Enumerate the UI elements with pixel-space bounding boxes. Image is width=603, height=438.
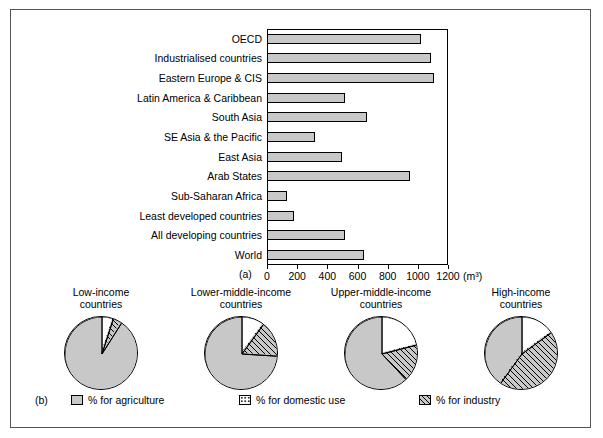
pie-slice-agriculture	[64, 316, 138, 390]
pie-chart-group: Low-income countries	[31, 286, 171, 390]
x-axis-tick	[388, 265, 389, 269]
pie-chart-group: High-income countries	[451, 286, 591, 390]
bar-row: Industrialised countries	[267, 49, 448, 69]
pie-chart-group: Lower-middle-income countries	[171, 286, 311, 390]
bar-category-label: World	[235, 250, 262, 261]
legend-swatch-agriculture	[71, 395, 83, 405]
bar-category-label: Latin America & Caribbean	[137, 92, 262, 103]
bar-category-label: Industrialised countries	[155, 53, 262, 64]
x-axis-tick	[418, 265, 419, 269]
legend-swatch-industry	[419, 395, 431, 405]
bar-row: SE Asia & the Pacific	[267, 127, 448, 147]
bar-row: Least developed countries	[267, 206, 448, 226]
pie-chart	[204, 316, 278, 390]
bar-category-label: South Asia	[212, 112, 262, 123]
bar-row: Sub-Saharan Africa	[267, 186, 448, 206]
bar-fill	[267, 93, 345, 103]
x-axis-tick	[327, 265, 328, 269]
pie-title: High-income countries	[451, 286, 591, 310]
bar-category-label: Sub-Saharan Africa	[171, 191, 262, 202]
bar-category-label: Least developed countries	[139, 210, 262, 221]
legend-label: % for domestic use	[256, 394, 345, 406]
x-axis-tick	[267, 265, 268, 269]
bar-fill	[267, 230, 345, 240]
panel-b-pie-charts: Low-income countriesLower-middle-income …	[11, 278, 592, 429]
figure-frame: OECDIndustrialised countriesEastern Euro…	[10, 9, 591, 428]
legend-label: % for industry	[436, 394, 500, 406]
bar-row: Eastern Europe & CIS	[267, 68, 448, 88]
bar-fill	[267, 53, 431, 63]
bar-category-label: East Asia	[218, 151, 262, 162]
bar-fill	[267, 171, 410, 181]
bar-category-label: All developing countries	[151, 230, 262, 241]
panel-a-bar-chart: OECDIndustrialised countriesEastern Euro…	[11, 10, 592, 278]
bar-row: Arab States	[267, 167, 448, 187]
legend-item: % for industry	[419, 394, 500, 406]
x-axis-tick	[448, 265, 449, 269]
x-axis: 020040060080010001200	[267, 265, 448, 266]
bar-fill	[267, 152, 342, 162]
pie-chart	[344, 316, 418, 390]
bar-row: OECD	[267, 29, 448, 49]
bar-row: East Asia	[267, 147, 448, 167]
legend: (b) % for agriculture% for domestic use%…	[11, 394, 592, 414]
pie-title: Lower-middle-income countries	[171, 286, 311, 310]
legend-item: % for domestic use	[239, 394, 345, 406]
bar-fill	[267, 73, 434, 83]
pie-title: Low-income countries	[31, 286, 171, 310]
x-axis-tick	[297, 265, 298, 269]
legend-label: % for agriculture	[88, 394, 164, 406]
legend-item: % for agriculture	[71, 394, 164, 406]
x-axis-tick	[358, 265, 359, 269]
bar-row: South Asia	[267, 108, 448, 128]
pie-title: Upper-middle-income countries	[311, 286, 451, 310]
bar-fill	[267, 132, 315, 142]
bar-row: All developing countries	[267, 226, 448, 246]
bar-fill	[267, 250, 364, 260]
bar-category-label: OECD	[232, 33, 262, 44]
bar-fill	[267, 211, 294, 221]
bar-fill	[267, 112, 367, 122]
panel-b-label: (b)	[35, 394, 48, 406]
bar-fill	[267, 34, 421, 44]
bar-category-label: Eastern Europe & CIS	[159, 73, 262, 84]
legend-swatch-domestic	[239, 395, 251, 405]
bar-fill	[267, 191, 287, 201]
pie-chart	[484, 316, 558, 390]
bar-row: World	[267, 245, 448, 265]
bar-category-label: SE Asia & the Pacific	[164, 132, 262, 143]
pie-chart	[64, 316, 138, 390]
bar-row: Latin America & Caribbean	[267, 88, 448, 108]
bar-category-label: Arab States	[207, 171, 262, 182]
pie-chart-group: Upper-middle-income countries	[311, 286, 451, 390]
